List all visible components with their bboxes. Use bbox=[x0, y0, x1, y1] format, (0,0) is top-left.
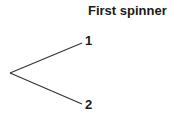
branch-1-line bbox=[10, 43, 82, 73]
branch-2-label: 2 bbox=[85, 97, 92, 112]
branch-1-label: 1 bbox=[85, 33, 92, 48]
branch-2-line bbox=[10, 73, 82, 104]
tree-diagram: 1 2 bbox=[0, 0, 173, 118]
